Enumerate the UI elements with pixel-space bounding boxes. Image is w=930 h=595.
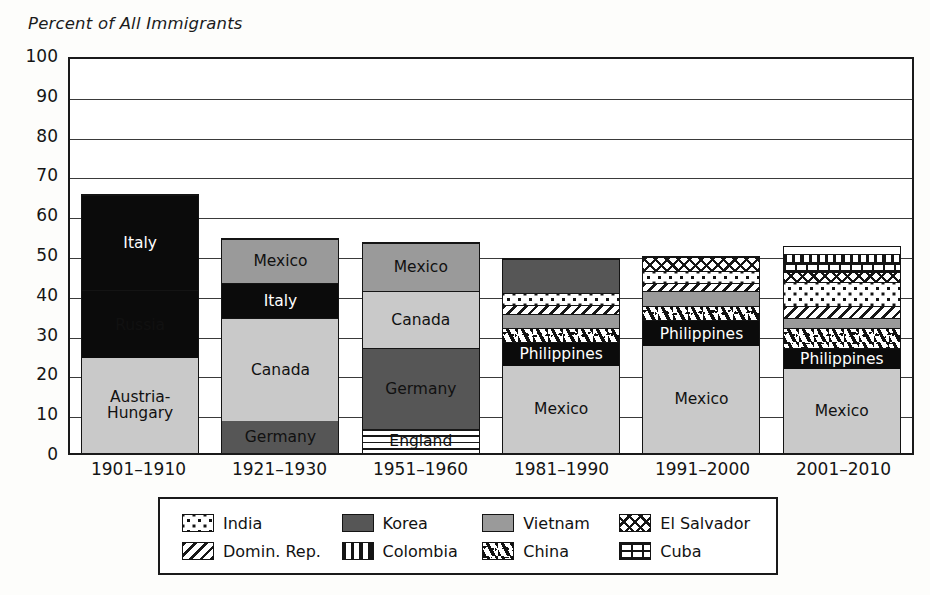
x-axis-tick-label: 1951–1960	[350, 459, 491, 479]
bar-segment[interactable]: Italy	[222, 283, 338, 319]
bar-segment[interactable]: Mexico	[643, 346, 759, 453]
legend-label: Colombia	[383, 542, 458, 561]
legend-item[interactable]: Korea	[342, 514, 483, 533]
bar-segment[interactable]: Philippines	[784, 348, 900, 370]
bar-group: MexicoPhilippines	[772, 59, 912, 453]
bar-segment[interactable]	[784, 272, 900, 282]
bar-segment[interactable]	[643, 257, 759, 271]
bar-segment[interactable]: Germany	[222, 421, 338, 453]
bar-segment[interactable]: Philippines	[643, 320, 759, 346]
stacked-bar[interactable]: Austria-HungaryRussiaItaly	[81, 194, 199, 453]
legend-row: Domin. Rep.ColombiaChinaCuba	[182, 537, 760, 565]
bar-segment-label: Italy	[121, 235, 159, 251]
legend-item[interactable]: El Salvador	[619, 514, 760, 533]
legend-item[interactable]: Vietnam	[482, 514, 619, 533]
stacked-bar[interactable]: GermanyCanadaItalyMexico	[221, 238, 339, 453]
bar-segment-label: Mexico	[392, 259, 450, 275]
y-axis-tick-label: 30	[12, 327, 58, 344]
bar-segment[interactable]: Mexico	[363, 243, 479, 291]
bar-segment[interactable]: Canada	[222, 318, 338, 421]
legend-swatch-icon	[619, 542, 651, 560]
bar-segment-label: Russia	[113, 317, 167, 333]
bar-segment-label: Germany	[383, 381, 458, 397]
bar-segment[interactable]: England	[363, 429, 479, 453]
plot-area: Austria-HungaryRussiaItalyGermanyCanadaI…	[68, 57, 914, 455]
bar-segment[interactable]	[784, 262, 900, 272]
bar-segment[interactable]: Mexico	[503, 366, 619, 453]
bar-segment-label: Canada	[389, 312, 452, 328]
bar-segment[interactable]	[643, 306, 759, 320]
x-axis-tick-label: 1991–2000	[632, 459, 773, 479]
legend-swatch-icon	[342, 542, 374, 560]
stacked-bar[interactable]: MexicoPhilippines	[642, 256, 760, 453]
bar-group: MexicoPhilippines	[631, 59, 771, 453]
x-axis-tick-label: 1921–1930	[209, 459, 350, 479]
y-axis-tick-label: 20	[12, 366, 58, 383]
y-axis-tick-label: 80	[12, 128, 58, 145]
bar-segment[interactable]	[643, 291, 759, 307]
bar-segment[interactable]	[784, 254, 900, 262]
legend-label: India	[223, 514, 262, 533]
bar-segment-label: Canada	[249, 362, 312, 378]
bar-segment[interactable]	[643, 283, 759, 291]
bar-segment[interactable]: Russia	[82, 290, 198, 357]
bar-segment[interactable]: Italy	[82, 195, 198, 290]
chart-legend: IndiaKoreaVietnamEl SalvadorDomin. Rep.C…	[158, 497, 778, 575]
legend-label: Cuba	[660, 542, 701, 561]
bar-segment[interactable]	[503, 305, 619, 315]
y-axis-tick-label: 50	[12, 247, 58, 264]
bar-segment[interactable]: Mexico	[222, 239, 338, 283]
bar-segment-label: Italy	[262, 293, 300, 309]
legend-swatch-icon	[619, 514, 651, 532]
immigration-stacked-bar-chart: Percent of All Immigrants Austria-Hungar…	[0, 0, 930, 595]
bar-segment[interactable]	[784, 282, 900, 306]
stacked-bar[interactable]: MexicoPhilippines	[783, 246, 901, 453]
bar-group: Austria-HungaryRussiaItaly	[70, 59, 210, 453]
legend-swatch-icon	[482, 542, 514, 560]
bar-segment[interactable]	[784, 328, 900, 348]
bar-segment[interactable]: Philippines	[503, 342, 619, 366]
bar-segment[interactable]	[503, 314, 619, 328]
legend-label: Korea	[383, 514, 428, 533]
bar-segment-label: Germany	[243, 429, 318, 445]
bar-segment-label: Austria-Hungary	[105, 389, 175, 422]
legend-label: Vietnam	[523, 514, 590, 533]
y-axis-tick-label: 100	[12, 48, 58, 65]
bar-segment[interactable]: Germany	[363, 348, 479, 429]
legend-swatch-icon	[342, 514, 374, 532]
bar-segment-label: England	[387, 433, 454, 449]
y-axis-tick-label: 90	[12, 88, 58, 105]
y-axis-title: Percent of All Immigrants	[28, 14, 243, 33]
x-axis-labels: 1901–19101921–19301951–19601981–19901991…	[68, 459, 914, 479]
bar-segment-label: Mexico	[672, 391, 730, 407]
legend-item[interactable]: China	[482, 542, 619, 561]
bar-segment[interactable]	[503, 328, 619, 342]
legend-item[interactable]: Cuba	[619, 542, 760, 561]
bar-group: MexicoPhilippines	[491, 59, 631, 453]
legend-label: Domin. Rep.	[223, 542, 321, 561]
bar-segment-label: Mexico	[251, 253, 309, 269]
bar-segment[interactable]: Mexico	[784, 369, 900, 453]
stacked-bar[interactable]: EnglandGermanyCanadaMexico	[362, 242, 480, 453]
legend-row: IndiaKoreaVietnamEl Salvador	[182, 509, 760, 537]
bar-segment[interactable]	[503, 293, 619, 305]
bar-segment[interactable]: Austria-Hungary	[82, 358, 198, 453]
bar-segment-label: Philippines	[517, 346, 605, 362]
legend-item[interactable]: Domin. Rep.	[182, 542, 342, 561]
legend-swatch-icon	[182, 542, 214, 560]
bar-segment[interactable]: Canada	[363, 291, 479, 348]
y-axis-tick-label: 40	[12, 287, 58, 304]
x-axis-tick-label: 2001–2010	[773, 459, 914, 479]
bar-segment[interactable]	[643, 271, 759, 283]
bar-group: EnglandGermanyCanadaMexico	[351, 59, 491, 453]
legend-item[interactable]: India	[182, 514, 342, 533]
legend-item[interactable]: Colombia	[342, 542, 483, 561]
bar-segment[interactable]	[503, 259, 619, 293]
y-axis-tick-label: 0	[12, 446, 58, 463]
legend-swatch-icon	[482, 514, 514, 532]
bar-segment[interactable]	[784, 318, 900, 328]
legend-swatch-icon	[182, 514, 214, 532]
bar-segment[interactable]	[784, 306, 900, 318]
y-axis-tick-label: 10	[12, 406, 58, 423]
stacked-bar[interactable]: MexicoPhilippines	[502, 258, 620, 453]
